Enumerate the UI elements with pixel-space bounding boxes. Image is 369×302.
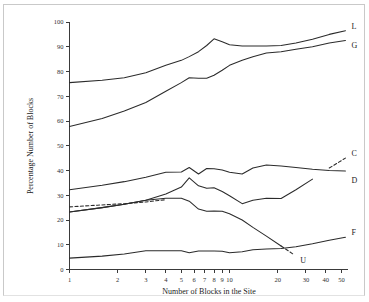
x-tick-group: 1234567891020304050 — [68, 270, 345, 283]
series-line-U — [70, 198, 282, 246]
series-line-C-dashed — [329, 158, 345, 168]
series-label-G: G — [351, 41, 357, 50]
x-axis-title: Number of Blocks in the Site — [162, 287, 256, 296]
y-tick-label: 40 — [57, 167, 64, 174]
series-line-D — [70, 165, 346, 190]
x-tick-label: 20 — [274, 276, 281, 283]
x-tick-label: 30 — [303, 276, 310, 283]
series-line-C-lead-dashed — [70, 200, 166, 207]
series-label-U: U — [300, 256, 306, 265]
y-tick-label: 0 — [60, 266, 63, 273]
series-label-D: D — [351, 176, 357, 185]
x-tick-label: 7 — [203, 276, 207, 283]
y-axis: 0102030405060708090100 — [54, 18, 70, 273]
series-label-F: F — [351, 228, 356, 237]
x-tick-label: 2 — [116, 276, 119, 283]
x-tick-label: 9 — [221, 276, 224, 283]
y-tick-label: 60 — [57, 117, 64, 124]
x-tick-label: 3 — [144, 276, 147, 283]
x-tick-label: 10 — [226, 276, 233, 283]
x-axis: 1234567891020304050 — [68, 270, 348, 283]
x-tick-label: 5 — [180, 276, 183, 283]
y-tick-label: 80 — [57, 68, 64, 75]
y-axis-title: Percentage Number of Blocks — [26, 98, 35, 194]
series-label-C: C — [351, 149, 356, 158]
y-tick-label: 90 — [57, 43, 64, 50]
y-tick-group: 0102030405060708090100 — [54, 18, 70, 273]
series-label-L: L — [351, 22, 356, 31]
series-group — [70, 31, 346, 258]
y-tick-label: 10 — [57, 241, 64, 248]
line-chart: 0102030405060708090100 12345678910203040… — [0, 0, 369, 302]
y-tick-label: 70 — [57, 93, 64, 100]
x-tick-label: 8 — [212, 276, 215, 283]
series-line-G — [70, 41, 346, 127]
series-line-L — [70, 31, 346, 83]
y-tick-label: 100 — [54, 18, 64, 25]
x-tick-label: 50 — [338, 276, 345, 283]
x-tick-label: 6 — [192, 276, 196, 283]
figure-root: 0102030405060708090100 12345678910203040… — [0, 0, 369, 302]
series-label-group: LGCDFU — [300, 22, 357, 265]
y-tick-label: 20 — [57, 216, 64, 223]
y-tick-label: 30 — [57, 192, 64, 199]
x-tick-label: 1 — [68, 276, 71, 283]
series-line-F — [70, 237, 346, 258]
x-tick-label: 4 — [164, 276, 168, 283]
y-tick-label: 50 — [57, 142, 64, 149]
x-tick-label: 40 — [323, 276, 330, 283]
